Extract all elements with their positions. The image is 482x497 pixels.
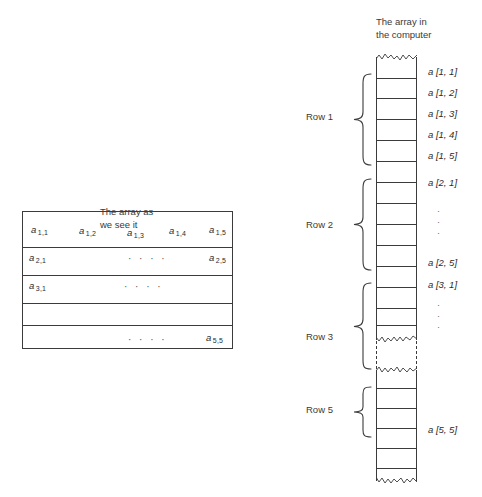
slot-label-a-5-5: a [5, 5]: [428, 424, 457, 435]
slot-label-a-1-1: a [1, 1]: [428, 66, 457, 77]
memory-column: [376, 57, 417, 481]
memory-cell-divider: [376, 182, 417, 183]
table-cell-a-1-2: a1,2: [79, 225, 96, 237]
table-ellipsis-row5: · · · ·: [128, 334, 167, 345]
memory-cell-divider: [376, 119, 417, 120]
right-caption-line1: The array in: [376, 16, 427, 27]
torn-edge-top-icon: [376, 53, 417, 62]
table-row-divider-1: [23, 247, 232, 248]
table-cell-a-2-1: a2,1: [29, 252, 46, 264]
memory-cell-divider: [376, 468, 417, 469]
row-label-row-2: Row 2: [306, 219, 333, 230]
memory-cell-divider: [376, 287, 417, 288]
subscript-1-4: 1,4: [176, 230, 186, 237]
row-label-row-5: Row 5: [306, 404, 333, 415]
row-label-row-1: Row 1: [306, 111, 333, 122]
slot-label-a-1-5: a [1, 5]: [428, 150, 457, 161]
table-cell-a-3-1: a3,1: [29, 280, 46, 292]
memory-cell-divider: [376, 161, 417, 162]
subscript-1-5: 1,5: [216, 229, 226, 236]
row-label-row-3: Row 3: [306, 331, 333, 342]
memory-column-left-rail-bottom: [376, 370, 377, 481]
table-ellipsis-row2: · · · ·: [128, 253, 167, 264]
memory-cell-divider: [376, 448, 417, 449]
memory-cell-divider: [376, 408, 417, 409]
subscript-2-5: 2,5: [216, 257, 226, 264]
vertical-ellipsis-row2: ···: [437, 206, 440, 239]
table-cell-a-1-4: a1,4: [169, 225, 186, 237]
memory-cell-divider: [376, 428, 417, 429]
slot-label-a-2-1: a [2, 1]: [428, 177, 457, 188]
subscript-5-5: 5,5: [213, 337, 223, 344]
brace-row-5: [348, 385, 372, 439]
memory-cell-divider: [376, 245, 417, 246]
table-cell-a-2-5: a2,5: [209, 252, 226, 264]
memory-cell-divider: [376, 98, 417, 99]
table-row-divider-3: [23, 303, 232, 304]
torn-edge-mid-upper-icon: [376, 335, 417, 344]
right-panel-caption: The array in the computer: [376, 16, 431, 41]
torn-edge-bottom-icon: [376, 476, 417, 485]
torn-edge-mid-lower-icon: [376, 366, 417, 375]
table-cell-a-1-3: a1,3: [127, 227, 144, 239]
memory-cell-divider: [376, 140, 417, 141]
vertical-ellipsis-row3: ···: [437, 300, 440, 333]
table-cell-a-1-1: a1,1: [31, 224, 48, 236]
gap-dashed-right: [416, 341, 417, 369]
slot-label-a-1-2: a [1, 2]: [428, 87, 457, 98]
table-row-divider-4: [23, 325, 232, 326]
memory-column-right-rail-bottom: [416, 370, 417, 481]
right-caption-line2: the computer: [376, 29, 431, 40]
slot-label-a-1-3: a [1, 3]: [428, 108, 457, 119]
slot-label-a-3-1: a [3, 1]: [428, 279, 457, 290]
subscript-3-1: 3,1: [36, 285, 46, 292]
memory-cell-divider: [376, 325, 417, 326]
memory-column-right-rail-top: [416, 57, 417, 340]
subscript-1-3: 1,3: [134, 232, 144, 239]
memory-cell-divider: [376, 308, 417, 309]
table-ellipsis-row3: · · · ·: [124, 281, 163, 292]
memory-cell-divider: [376, 224, 417, 225]
brace-row-3: [348, 281, 372, 371]
table-cell-a-1-5: a1,5: [209, 224, 226, 236]
table-row-divider-2: [23, 275, 232, 276]
gap-dashed-left: [376, 341, 377, 369]
memory-cell-divider: [376, 388, 417, 389]
slot-label-a-2-5: a [2, 5]: [428, 257, 457, 268]
subscript-1-2: 1,2: [86, 230, 96, 237]
brace-row-2: [348, 177, 372, 272]
memory-cell-divider: [376, 203, 417, 204]
table-cell-a-5-5: a5,5: [206, 332, 223, 344]
subscript-2-1: 2,1: [36, 257, 46, 264]
memory-cell-divider: [376, 266, 417, 267]
slot-label-a-1-4: a [1, 4]: [428, 129, 457, 140]
brace-row-1: [348, 72, 372, 167]
subscript-1-1: 1,1: [38, 229, 48, 236]
memory-cell-divider: [376, 78, 417, 79]
memory-column-left-rail-top: [376, 57, 377, 340]
